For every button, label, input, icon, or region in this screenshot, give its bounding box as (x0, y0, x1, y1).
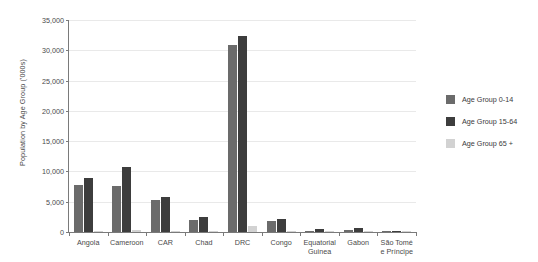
bar (199, 217, 208, 232)
y-axis-tick-label: 20,000 (4, 106, 69, 115)
x-axis-tick-mark (339, 232, 340, 236)
y-axis-tick-label: 10,000 (4, 167, 69, 176)
x-axis-tick-mark (69, 232, 70, 236)
bar-group (339, 20, 378, 232)
x-axis-tick-mark (146, 232, 147, 236)
bar (151, 200, 160, 232)
y-axis-tick-label: 35,000 (4, 16, 69, 25)
x-axis-tick-mark (223, 232, 224, 236)
y-axis-tick-label: 25,000 (4, 76, 69, 85)
legend-swatch-icon (446, 139, 455, 148)
bar (315, 229, 324, 232)
bar-group (377, 20, 416, 232)
bar (305, 231, 314, 233)
x-axis-tick-mark (108, 232, 109, 236)
x-axis-tick-mark (185, 232, 186, 236)
bar-group (262, 20, 301, 232)
bar (132, 230, 141, 232)
bar (364, 231, 373, 232)
bar-group (185, 20, 224, 232)
chart-legend: Age Group 0-14Age Group 15-64Age Group 6… (446, 88, 517, 154)
y-axis-tick-label: 0 (4, 228, 69, 237)
bar (392, 231, 401, 232)
bar (325, 231, 334, 232)
legend-item[interactable]: Age Group 15-64 (446, 110, 517, 132)
y-axis-tick-label: 5,000 (4, 197, 69, 206)
bar (287, 231, 296, 232)
bar (189, 220, 198, 232)
bar-group (108, 20, 147, 232)
bar (84, 178, 93, 233)
bar (238, 36, 247, 232)
bar-group (300, 20, 339, 232)
bar (112, 186, 121, 232)
bar-group (146, 20, 185, 232)
bar (122, 167, 131, 232)
x-axis-tick-mark (262, 232, 263, 236)
bar (402, 231, 411, 232)
bar (161, 197, 170, 232)
plot-area: 05,00010,00015,00020,00025,00030,00035,0… (69, 20, 416, 232)
legend-item[interactable]: Age Group 0-14 (446, 88, 517, 110)
bar (171, 231, 180, 232)
bar-group (69, 20, 108, 232)
bar (344, 230, 353, 232)
bar (382, 231, 391, 232)
bar (228, 45, 237, 232)
y-axis-tick-label: 15,000 (4, 137, 69, 146)
legend-swatch-icon (446, 117, 455, 126)
y-axis-tick-label: 30,000 (4, 46, 69, 55)
bar (267, 221, 276, 232)
bar-chart: Population by Age Group ('000s) 05,00010… (0, 0, 538, 262)
bar (74, 185, 83, 232)
bar (94, 231, 103, 232)
x-axis-tick-mark (377, 232, 378, 236)
bar (354, 228, 363, 232)
legend-item-label: Age Group 15-64 (462, 117, 517, 126)
bar (248, 226, 257, 232)
legend-swatch-icon (446, 95, 455, 104)
x-axis-tick-mark (300, 232, 301, 236)
x-axis-line (69, 232, 417, 233)
bar (209, 231, 218, 232)
legend-item-label: Age Group 0-14 (462, 95, 513, 104)
legend-item-label: Age Group 65 + (462, 139, 513, 148)
legend-item[interactable]: Age Group 65 + (446, 132, 517, 154)
x-axis-tick-label: São Tomée Príncipe (362, 238, 432, 256)
bar-group (223, 20, 262, 232)
x-axis-tick-mark (416, 232, 417, 236)
bar (277, 219, 286, 232)
